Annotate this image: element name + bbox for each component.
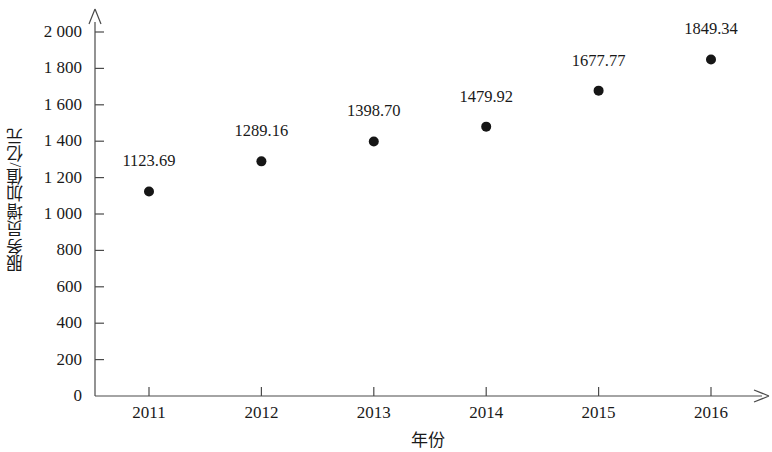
y-tick-label: 1 600 — [44, 95, 82, 114]
data-point-value-label: 1398.70 — [347, 101, 401, 120]
data-point-markers — [144, 54, 716, 196]
y-tick-label: 1 400 — [44, 131, 82, 150]
y-tick-label: 2 000 — [44, 22, 82, 41]
y-tick-label: 1 000 — [44, 204, 82, 223]
data-point-value-label: 1677.77 — [572, 51, 626, 70]
axis-group — [89, 9, 769, 402]
y-tick-label: 200 — [57, 350, 83, 369]
x-axis-title: 年份 — [411, 431, 445, 450]
x-tick-label: 2013 — [357, 403, 391, 422]
y-tick-label: 600 — [57, 277, 83, 296]
data-point-marker — [256, 156, 266, 166]
y-axis-arrowhead — [89, 9, 101, 24]
x-tick-label: 2011 — [132, 403, 165, 422]
y-tick-label: 1 800 — [44, 58, 82, 77]
y-tick-label: 1 200 — [44, 168, 82, 187]
data-point-value-label: 1289.16 — [235, 121, 289, 140]
x-tick-label: 2012 — [244, 403, 278, 422]
data-point-marker — [706, 54, 716, 64]
chart-canvas: 02004006008001 0001 2001 4001 6001 8002 … — [0, 0, 772, 452]
scatter-chart-figure: 02004006008001 0001 2001 4001 6001 8002 … — [0, 0, 772, 452]
y-tick-label: 800 — [57, 240, 83, 259]
data-point-value-label: 1123.69 — [122, 151, 175, 170]
data-point-marker — [369, 136, 379, 146]
x-tick-label: 2014 — [469, 403, 504, 422]
y-tick-label: 400 — [57, 313, 83, 332]
data-point-value-label: 1479.92 — [459, 87, 513, 106]
data-point-labels: 1123.691289.161398.701479.921677.771849.… — [122, 19, 737, 170]
y-tick-label: 0 — [74, 386, 83, 405]
x-axis-ticks: 201120122013201420152016 — [132, 387, 728, 422]
data-point-marker — [594, 86, 604, 96]
x-tick-label: 2015 — [582, 403, 616, 422]
data-point-marker — [481, 122, 491, 132]
data-point-value-label: 1849.34 — [684, 19, 738, 38]
x-tick-label: 2016 — [694, 403, 728, 422]
data-point-marker — [144, 186, 154, 196]
